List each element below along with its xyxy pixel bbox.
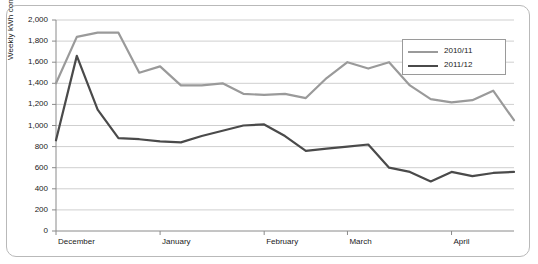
legend-swatch-line [408, 65, 438, 67]
chart-legend: 2010/11 2011/12 [402, 39, 506, 75]
legend-swatch-line [408, 51, 438, 53]
legend-label: 2011/12 [444, 60, 472, 69]
legend-label: 2010/11 [444, 46, 472, 55]
